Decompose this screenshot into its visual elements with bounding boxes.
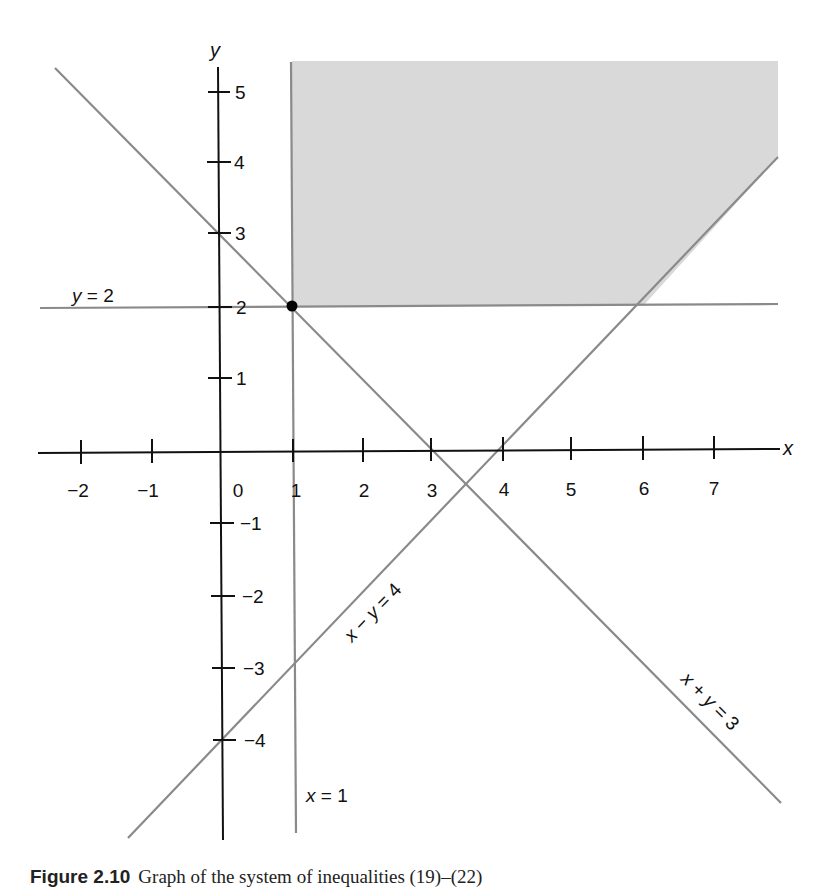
label-x-eq-1: x = 1 <box>305 785 348 806</box>
svg-text:2: 2 <box>359 480 370 501</box>
y-axis-label: y <box>208 39 221 61</box>
label-x-minus-y-eq-4: x − y = 4 <box>339 578 406 646</box>
svg-text:0: 0 <box>233 480 244 501</box>
svg-text:−4: −4 <box>244 730 266 751</box>
svg-text:−2: −2 <box>242 586 264 607</box>
corner-point <box>287 301 298 312</box>
svg-text:6: 6 <box>639 478 650 499</box>
svg-text:4: 4 <box>499 479 510 500</box>
caption-text: Graph of the system of inequalities (19)… <box>138 866 482 887</box>
svg-text:−3: −3 <box>243 658 265 679</box>
svg-text:3: 3 <box>235 223 246 244</box>
x-axis-label: x <box>782 437 794 459</box>
x-axis <box>38 449 780 453</box>
feasible-region <box>292 61 778 306</box>
figure-caption: Figure 2.10Graph of the system of inequa… <box>30 866 482 888</box>
svg-text:2: 2 <box>236 297 247 318</box>
svg-text:4: 4 <box>234 152 245 173</box>
svg-text:1: 1 <box>236 368 247 389</box>
label-y-eq-2: y = 2 <box>70 285 114 306</box>
svg-text:−1: −1 <box>240 513 262 534</box>
svg-text:5: 5 <box>566 479 577 500</box>
y-axis <box>218 67 223 840</box>
svg-text:−2: −2 <box>67 480 89 501</box>
svg-text:7: 7 <box>709 478 720 499</box>
x-tick-labels: −2 −1 0 1 2 3 4 5 6 7 <box>67 478 719 501</box>
label-x-plus-y-eq-3: x + y = 3 <box>676 667 743 734</box>
svg-text:1: 1 <box>291 480 302 501</box>
caption-number: Figure 2.10 <box>30 866 130 887</box>
svg-text:5: 5 <box>235 82 246 103</box>
y-tick-labels: 5 4 3 2 1 −1 −2 −3 −4 <box>234 82 266 751</box>
svg-text:−1: −1 <box>137 480 159 501</box>
svg-text:3: 3 <box>427 480 438 501</box>
